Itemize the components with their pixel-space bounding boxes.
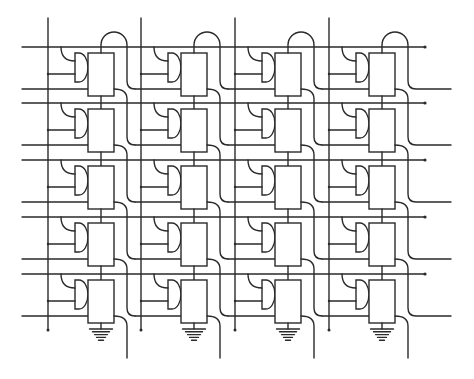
wordline-end-dot xyxy=(423,272,426,275)
storage-cell-box xyxy=(369,166,395,209)
junction-dot xyxy=(328,129,330,131)
column-exit-line xyxy=(395,316,408,358)
junction-dot xyxy=(234,73,236,75)
column-exit-line xyxy=(114,316,127,358)
output-line xyxy=(114,202,135,259)
feed-arc xyxy=(61,160,75,174)
junction-dot xyxy=(140,73,142,75)
storage-cell-box xyxy=(88,109,114,152)
junction-dot xyxy=(234,243,236,245)
output-line xyxy=(114,259,135,316)
bitline-end-dot xyxy=(47,329,50,332)
and-gate-icon xyxy=(356,223,369,252)
and-gate-icon xyxy=(168,166,181,195)
output-line xyxy=(395,259,451,316)
output-line xyxy=(301,145,322,202)
feed-arc xyxy=(61,47,75,61)
and-gate-icon xyxy=(75,53,88,82)
storage-cell-box xyxy=(369,53,395,96)
and-gate-icon xyxy=(168,53,181,82)
and-gate-icon xyxy=(356,280,369,309)
output-line xyxy=(395,145,451,202)
storage-cell-box xyxy=(88,53,114,96)
junction-dot xyxy=(140,243,142,245)
feed-arc xyxy=(154,217,168,231)
bitline-end-dot xyxy=(140,329,143,332)
storage-cell-box xyxy=(369,223,395,266)
junction-dot xyxy=(328,300,330,302)
storage-cell-box xyxy=(88,280,114,323)
and-gate-icon xyxy=(356,109,369,138)
storage-cell-box xyxy=(181,223,207,266)
storage-cell-box xyxy=(275,166,301,209)
wordline-end-dot xyxy=(423,158,426,161)
junction-dot xyxy=(328,243,330,245)
junction-dot xyxy=(328,73,330,75)
feed-arc xyxy=(61,217,75,231)
and-gate-icon xyxy=(262,166,275,195)
output-line xyxy=(207,259,228,316)
feed-arc xyxy=(154,160,168,174)
storage-cell-box xyxy=(181,53,207,96)
junction-dot xyxy=(47,243,49,245)
storage-cell-box xyxy=(275,109,301,152)
output-line xyxy=(301,202,322,259)
and-gate-icon xyxy=(262,53,275,82)
circuit-diagram: Memory cell array schematic xyxy=(0,0,474,379)
storage-cell-box xyxy=(275,223,301,266)
and-gate-icon xyxy=(262,280,275,309)
and-gate-icon xyxy=(168,223,181,252)
output-line xyxy=(301,259,322,316)
junction-dot xyxy=(47,73,49,75)
storage-cell-box xyxy=(369,280,395,323)
and-gate-icon xyxy=(168,280,181,309)
output-line xyxy=(395,202,451,259)
feed-arc xyxy=(248,217,262,231)
junction-dot xyxy=(140,186,142,188)
feed-arc xyxy=(248,274,262,288)
feed-arc xyxy=(61,274,75,288)
storage-cell-box xyxy=(88,166,114,209)
output-line xyxy=(114,89,135,145)
feed-arc xyxy=(342,103,356,117)
and-gate-icon xyxy=(262,109,275,138)
feed-arc xyxy=(248,160,262,174)
storage-cell-box xyxy=(88,223,114,266)
storage-cell-box xyxy=(369,109,395,152)
wordline-end-dot xyxy=(423,45,426,48)
feed-arc xyxy=(248,103,262,117)
storage-cell-box xyxy=(181,109,207,152)
feed-arc xyxy=(342,274,356,288)
and-gate-icon xyxy=(75,280,88,309)
feed-arc xyxy=(61,103,75,117)
feed-arc xyxy=(154,274,168,288)
and-gate-icon xyxy=(262,223,275,252)
and-gate-icon xyxy=(75,109,88,138)
junction-dot xyxy=(234,129,236,131)
junction-dot xyxy=(140,129,142,131)
wordline-end-dot xyxy=(423,101,426,104)
feed-arc xyxy=(248,47,262,61)
feed-arc xyxy=(342,47,356,61)
feed-arc xyxy=(342,217,356,231)
and-gate-icon xyxy=(75,166,88,195)
feed-arc xyxy=(154,103,168,117)
junction-dot xyxy=(234,300,236,302)
storage-cell-box xyxy=(275,53,301,96)
storage-cell-box xyxy=(181,166,207,209)
storage-cell-box xyxy=(181,280,207,323)
and-gate-icon xyxy=(75,223,88,252)
bitline-end-dot xyxy=(328,329,331,332)
wordline-end-dot xyxy=(423,215,426,218)
junction-dot xyxy=(234,186,236,188)
output-line xyxy=(207,202,228,259)
junction-dot xyxy=(47,129,49,131)
output-line xyxy=(395,89,451,145)
memory-array-schematic xyxy=(0,0,474,379)
junction-dot xyxy=(47,186,49,188)
and-gate-icon xyxy=(356,53,369,82)
column-exit-line xyxy=(301,316,314,358)
output-line xyxy=(114,145,135,202)
junction-dot xyxy=(328,186,330,188)
storage-cell-box xyxy=(275,280,301,323)
